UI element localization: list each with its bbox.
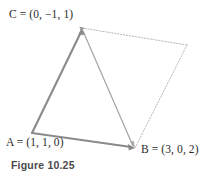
point-label-c-text: C = (0, −1, 1) [9, 8, 73, 20]
edge-d-to-b-dotted [135, 45, 187, 148]
figure-caption: Figure 10.25 [11, 159, 75, 171]
point-label-c: C = (0, −1, 1) [9, 8, 73, 20]
figure-container: C = (0, −1, 1) A = (1, 1, 0) B = (3, 0, … [0, 0, 214, 179]
point-label-b-text: B = (3, 0, 2) [141, 143, 199, 155]
edge-c-to-d-dotted [82, 28, 187, 45]
edge-c-to-b-solid [83, 31, 133, 146]
point-label-a: A = (1, 1, 0) [6, 136, 64, 148]
point-label-b: B = (3, 0, 2) [141, 143, 199, 155]
edge-a-to-c-solid [32, 32, 81, 133]
point-label-a-text: A = (1, 1, 0) [6, 136, 64, 148]
